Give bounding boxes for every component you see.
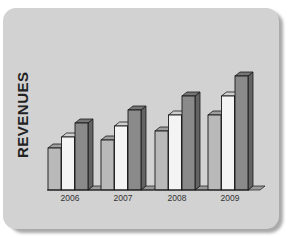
bar-side-face [88,119,93,190]
x-tick-label: 2007 [114,193,133,203]
bar-side-face [195,92,200,190]
bar-2009-series-2 [222,96,235,190]
x-tick-label: 2006 [61,193,80,203]
x-tick-label: 2008 [168,193,187,203]
bar-side-face [248,72,253,190]
x-tick-label: 2009 [221,193,240,203]
bar-2007-series-1 [101,140,114,190]
bar-chart-plot: 2006200720082009 [0,0,288,237]
bar-side-face [141,106,146,190]
bar-2007-series-3 [128,110,141,190]
bar-2006-series-2 [62,137,75,190]
bar-2008-series-1 [155,131,168,190]
bar-2008-series-3 [182,96,195,190]
bar-2007-series-2 [115,126,128,190]
bar-2009-series-1 [208,115,221,190]
bar-2006-series-3 [75,123,88,190]
bar-2006-series-1 [48,148,61,190]
bar-2009-series-3 [235,76,248,190]
bar-2008-series-2 [169,115,182,190]
